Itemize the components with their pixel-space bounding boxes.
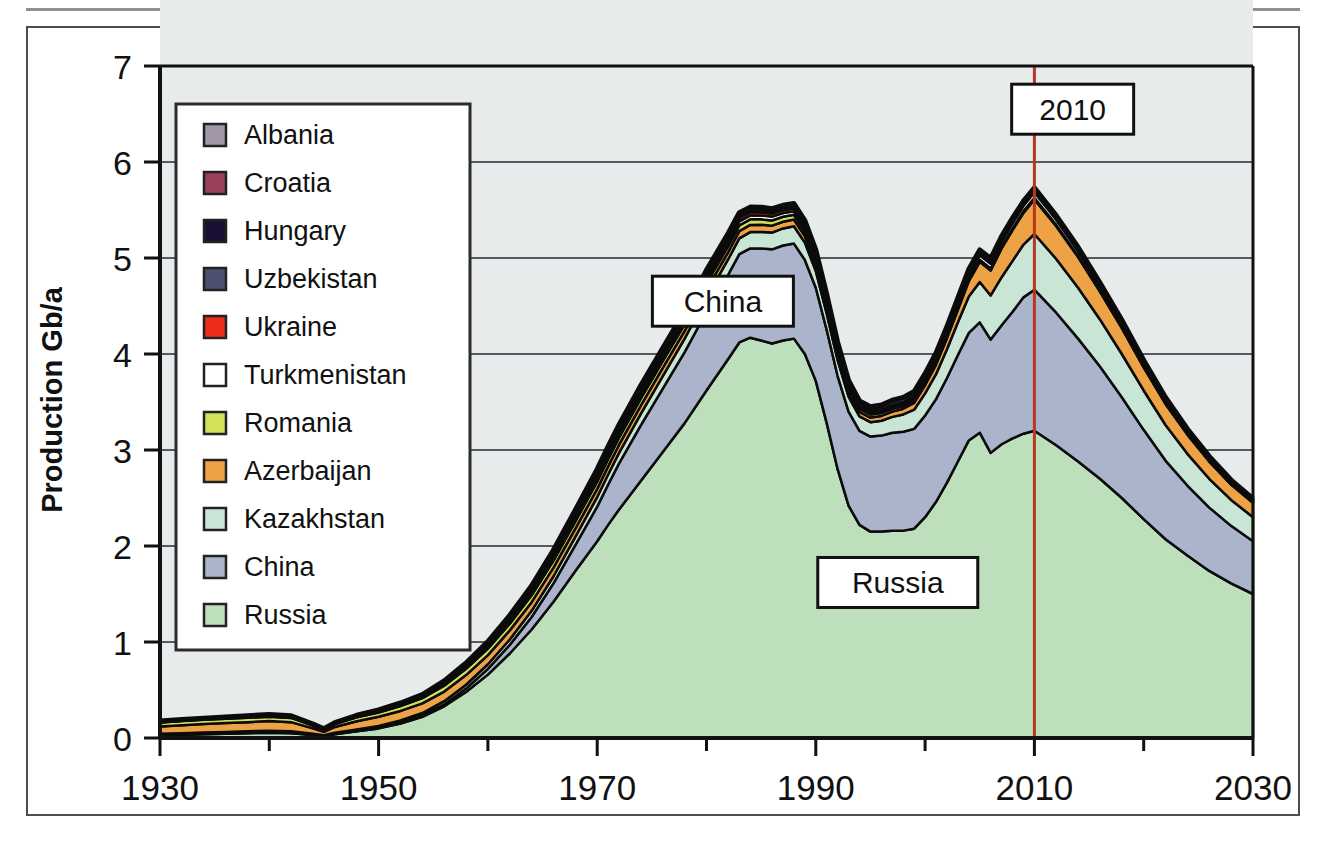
legend-item-albania[interactable]: Albania	[204, 120, 335, 150]
legend-label-china: China	[244, 552, 316, 582]
legend-item-romania[interactable]: Romania	[204, 408, 353, 438]
y-tick-label-7: 7	[113, 48, 132, 86]
plot-top-mask	[160, 0, 1253, 66]
y-axis-title: Production Gb/a	[36, 286, 68, 512]
annotation-china-callout: China	[652, 276, 793, 326]
legend-label-russia: Russia	[244, 600, 328, 630]
stacked-area-chart: 01234567193019501970199020102030Producti…	[0, 0, 1326, 845]
legend-label-albania: Albania	[244, 120, 335, 150]
legend-swatch-hungary	[204, 220, 226, 242]
x-tick-label-1950: 1950	[340, 768, 418, 807]
legend-swatch-ukraine	[204, 316, 226, 338]
y-tick-label-3: 3	[113, 432, 132, 470]
legend-item-china[interactable]: China	[204, 552, 316, 582]
y-tick-label-1: 1	[113, 624, 132, 662]
x-tick-label-2030: 2030	[1214, 768, 1292, 807]
legend-label-croatia: Croatia	[244, 168, 332, 198]
legend-swatch-russia	[204, 604, 226, 626]
legend-swatch-turkmenistan	[204, 364, 226, 386]
annotation-label: Russia	[852, 566, 944, 599]
legend-swatch-croatia	[204, 172, 226, 194]
legend-label-turkmenistan: Turkmenistan	[244, 360, 407, 390]
y-tick-label-5: 5	[113, 240, 132, 278]
legend-swatch-albania	[204, 124, 226, 146]
annotation-russia-callout: Russia	[818, 557, 978, 607]
legend-swatch-uzbekistan	[204, 268, 226, 290]
legend-label-ukraine: Ukraine	[244, 312, 337, 342]
legend-label-kazakhstan: Kazakhstan	[244, 504, 385, 534]
legend-label-azerbaijan: Azerbaijan	[244, 456, 372, 486]
legend-item-croatia[interactable]: Croatia	[204, 168, 332, 198]
legend-swatch-kazakhstan	[204, 508, 226, 530]
legend-label-hungary: Hungary	[244, 216, 347, 246]
figure-root: 01234567193019501970199020102030Producti…	[0, 0, 1326, 845]
x-tick-label-1970: 1970	[558, 768, 636, 807]
legend-label-uzbekistan: Uzbekistan	[244, 264, 378, 294]
y-tick-label-2: 2	[113, 528, 132, 566]
legend-item-russia[interactable]: Russia	[204, 600, 328, 630]
legend-swatch-azerbaijan	[204, 460, 226, 482]
legend: AlbaniaCroatiaHungaryUzbekistanUkraineTu…	[176, 104, 470, 650]
legend-label-romania: Romania	[244, 408, 353, 438]
y-tick-label-6: 6	[113, 144, 132, 182]
legend-item-hungary[interactable]: Hungary	[204, 216, 347, 246]
annotation-label: 2010	[1039, 93, 1106, 126]
y-tick-label-0: 0	[113, 720, 132, 758]
legend-item-ukraine[interactable]: Ukraine	[204, 312, 337, 342]
annotation-label: China	[684, 285, 763, 318]
legend-swatch-romania	[204, 412, 226, 434]
x-tick-label-1990: 1990	[777, 768, 855, 807]
annotation-year-callout: 2010	[1012, 84, 1134, 134]
legend-swatch-china	[204, 556, 226, 578]
y-tick-label-4: 4	[113, 336, 132, 374]
x-tick-label-1930: 1930	[121, 768, 199, 807]
x-tick-label-2010: 2010	[995, 768, 1073, 807]
